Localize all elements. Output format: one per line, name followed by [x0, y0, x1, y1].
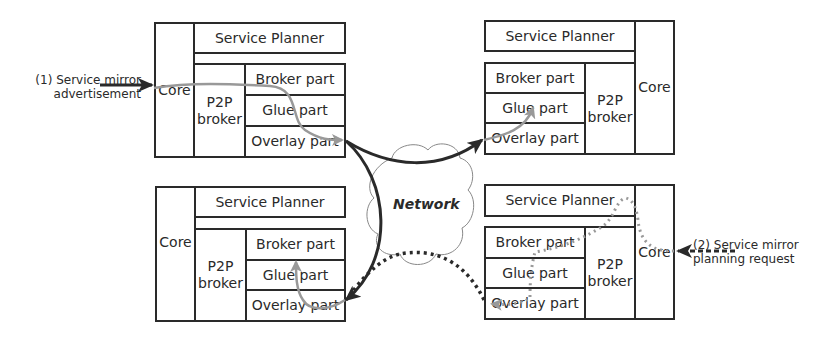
glue-part-label: Glue part	[263, 267, 328, 284]
arrow-tl-to-bl	[346, 141, 381, 300]
glue-part-label: Glue part	[502, 100, 567, 117]
glue-part-box: Glue part	[484, 92, 586, 124]
network-label: Network	[393, 196, 460, 212]
broker-part-box: Broker part	[244, 63, 346, 96]
connections-overlay	[0, 0, 834, 340]
service-planner-box: Service Planner	[193, 22, 346, 54]
overlay-part-label: Overlay part	[491, 130, 579, 147]
advertisement-label: (1) Service mirror advertisement	[31, 73, 141, 101]
core-label: Core	[638, 244, 670, 261]
glue-part-box: Glue part	[245, 259, 346, 291]
service-planner-label: Service Planner	[505, 28, 614, 45]
overlay-part-label: Overlay part	[491, 295, 579, 312]
broker-part-box: Broker part	[484, 62, 586, 94]
p2p-broker-box: P2P broker	[584, 62, 636, 155]
broker-part-label: Broker part	[496, 70, 575, 87]
p2p-broker-label: P2P broker	[197, 94, 243, 128]
broker-part-box: Broker part	[484, 226, 586, 259]
p2p-broker-label: P2P broker	[198, 258, 244, 292]
core-box: Core	[155, 186, 196, 322]
glue-part-box: Glue part	[484, 257, 586, 289]
core-label: Core	[638, 79, 670, 96]
p2p-broker-box: P2P broker	[193, 63, 246, 158]
service-planner-box: Service Planner	[194, 186, 346, 218]
overlay-part-box: Overlay part	[484, 122, 586, 155]
planning-line1: (2) Service mirror	[693, 238, 799, 252]
core-label: Core	[159, 234, 191, 251]
glue-part-label: Glue part	[502, 265, 567, 282]
service-planner-box: Service Planner	[484, 20, 636, 52]
p2p-broker-label: P2P broker	[587, 256, 633, 290]
overlay-part-label: Overlay part	[251, 133, 339, 150]
broker-part-label: Broker part	[256, 236, 335, 253]
service-planner-label: Service Planner	[215, 30, 324, 47]
service-planner-box: Service Planner	[484, 184, 636, 217]
overlay-part-box: Overlay part	[244, 125, 346, 158]
core-box: Core	[154, 22, 195, 158]
service-planner-label: Service Planner	[215, 194, 324, 211]
advertisement-line2: advertisement	[31, 87, 141, 101]
overlay-part-box: Overlay part	[245, 289, 346, 322]
p2p-broker-label: P2P broker	[587, 92, 633, 126]
arrow-br-to-bl-dotted	[348, 252, 484, 300]
p2p-broker-box: P2P broker	[194, 228, 247, 322]
core-label: Core	[158, 82, 190, 99]
planning-request-label: (2) Service mirror planning request	[693, 238, 799, 266]
planning-line2: planning request	[693, 252, 799, 266]
overlay-part-label: Overlay part	[252, 297, 340, 314]
core-box: Core	[634, 184, 675, 320]
broker-part-box: Broker part	[245, 228, 346, 261]
p2p-broker-box: P2P broker	[584, 226, 636, 320]
glue-part-label: Glue part	[262, 102, 327, 119]
broker-part-label: Broker part	[496, 234, 575, 251]
service-planner-label: Service Planner	[505, 192, 614, 209]
core-box: Core	[634, 20, 675, 155]
glue-part-box: Glue part	[244, 94, 346, 127]
broker-part-label: Broker part	[256, 71, 335, 88]
arrow-tl-to-tr	[346, 140, 482, 163]
advertisement-line1: (1) Service mirror	[31, 73, 141, 87]
overlay-part-box: Overlay part	[484, 287, 586, 320]
